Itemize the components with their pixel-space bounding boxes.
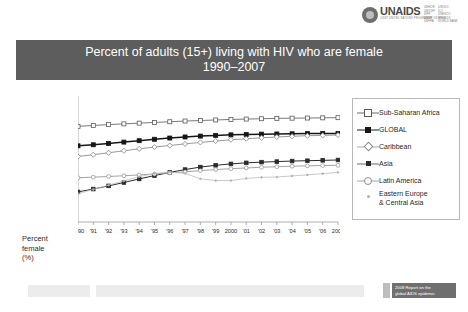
data-point (168, 120, 172, 124)
data-point (184, 173, 186, 175)
svg-text:'94: '94 (136, 228, 143, 234)
data-point (275, 160, 279, 164)
svg-text:'06: '06 (319, 228, 326, 234)
cosponsor-list: UNHCR UNICEF WFP UNDP UNFPA UNODC ILO UN… (424, 6, 464, 24)
svg-text:'92: '92 (105, 228, 112, 234)
unaids-emblem-icon (362, 7, 378, 23)
data-point (198, 140, 203, 145)
series-sub-saharan-africa (78, 116, 340, 129)
data-point (214, 168, 218, 172)
open-diamond-marker-icon (357, 141, 379, 152)
chart-legend: Sub-Saharan Africa GLOBAL Caribbean Asia (352, 98, 460, 220)
data-point (92, 189, 94, 191)
legend-label: Caribbean (379, 142, 411, 151)
footer-accent-block (383, 283, 390, 298)
series-global (78, 131, 340, 147)
data-point (260, 160, 264, 164)
data-point (200, 178, 202, 180)
data-point (275, 165, 279, 169)
plot-frame: 0102030405060701990'91'92'93'94'95'96'97… (78, 94, 340, 240)
legend-item-asia[interactable]: Asia (357, 155, 455, 172)
legend-item-sub-saharan-africa[interactable]: Sub-Saharan Africa (357, 104, 455, 121)
legend-label: GLOBAL (379, 125, 407, 134)
slide-title-line-2: 1990–2007 (203, 60, 266, 75)
data-point (290, 116, 294, 120)
data-point (337, 172, 339, 174)
y-axis-label-line-2: female (22, 244, 74, 254)
svg-text:'98: '98 (197, 228, 204, 234)
cosponsor-item: UNFPA (424, 20, 435, 24)
filled-square-small-marker-icon (357, 158, 379, 169)
data-point (198, 119, 202, 123)
data-point (321, 164, 325, 168)
legend-label: Sub-Saharan Africa (379, 108, 440, 117)
footer-bar-right (96, 285, 364, 297)
data-point (121, 148, 126, 153)
legend-item-caribbean[interactable]: Caribbean (357, 138, 455, 155)
data-point (91, 152, 96, 157)
data-point (306, 164, 310, 168)
data-point (122, 174, 126, 178)
data-point (78, 154, 81, 159)
data-point (137, 139, 141, 143)
legend-item-eastern-europe-central-asia[interactable]: Eastern Europe & Central Asia (357, 189, 455, 211)
data-point (107, 142, 111, 146)
data-point (229, 162, 233, 166)
data-point (78, 124, 80, 128)
cosponsor-column-2: UNODC ILO UNESCO WHO WORLD BANK (438, 6, 458, 24)
data-point (78, 144, 80, 148)
data-point (261, 177, 263, 179)
data-point (154, 173, 156, 175)
data-point (336, 116, 340, 120)
data-point (276, 176, 278, 178)
small-dot-marker-icon (357, 191, 379, 202)
data-point (213, 139, 218, 144)
svg-text:'04: '04 (288, 228, 295, 234)
svg-text:'96: '96 (166, 228, 173, 234)
svg-text:'01: '01 (243, 228, 250, 234)
data-point (290, 164, 294, 168)
data-point (228, 137, 233, 142)
data-point (244, 117, 248, 121)
slide-title-line-1: Percent of adults (15+) living with HIV … (85, 45, 383, 60)
data-point (152, 137, 156, 141)
data-point (245, 178, 247, 180)
slide-canvas: UNAIDS JOINT UNITED NATIONS PROGRAMME ON… (0, 0, 468, 312)
svg-text:'03: '03 (273, 228, 280, 234)
data-point (183, 119, 187, 123)
data-point (215, 180, 217, 182)
data-point (91, 175, 95, 179)
data-point (214, 164, 218, 168)
data-point (108, 184, 110, 186)
data-point (336, 163, 340, 167)
legend-item-global[interactable]: GLOBAL (357, 121, 455, 138)
data-point (137, 146, 142, 151)
data-point (290, 159, 294, 163)
data-point (199, 165, 203, 169)
legend-label: Latin America (379, 176, 421, 185)
svg-text:'95: '95 (151, 228, 158, 234)
slide-title-banner: Percent of adults (15+) living with HIV … (16, 40, 452, 80)
svg-text:'05: '05 (304, 228, 311, 234)
source-line-2: global AIDS epidemic (395, 291, 453, 297)
svg-text:1990: 1990 (78, 228, 84, 234)
data-point (214, 133, 218, 137)
data-point (229, 117, 233, 121)
data-point (137, 121, 141, 125)
y-axis-label-line-3: (%) (22, 253, 74, 263)
open-square-marker-icon (357, 107, 379, 118)
data-point (291, 175, 293, 177)
data-point (275, 116, 279, 120)
y-axis-label: Percent female (%) (22, 234, 74, 263)
data-point (168, 136, 172, 140)
legend-item-latin-america[interactable]: Latin America (357, 172, 455, 189)
legend-label: Asia (379, 159, 393, 168)
data-point (230, 180, 232, 182)
legend-label-multiline: Eastern Europe & Central Asia (379, 189, 428, 207)
cosponsor-item: WORLD BANK (438, 20, 458, 24)
svg-text:'93: '93 (120, 228, 127, 234)
data-point (183, 141, 188, 146)
footer-bar-left (28, 285, 90, 297)
series-eastern-europe-central-asia (78, 171, 339, 194)
data-point (321, 159, 325, 163)
